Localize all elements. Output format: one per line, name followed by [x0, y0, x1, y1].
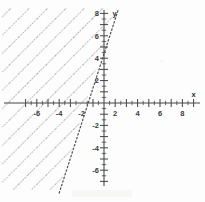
y-axis-label: y — [113, 9, 118, 18]
y-tick-label-neg4: -4 — [92, 144, 99, 153]
y-tick-label-8: 8 — [95, 9, 99, 18]
y-tick-label-6: 6 — [95, 32, 99, 41]
x-tick-label-8: 8 — [180, 109, 184, 118]
x-tick-label-6: 6 — [158, 109, 162, 118]
y-tick-label-2: 2 — [95, 76, 99, 85]
x-tick-label-neg4: -4 — [56, 109, 63, 118]
x-tick-label-4: 4 — [136, 109, 141, 118]
coordinate-plane-plot: -6 -4 -2 2 4 6 8 8 6 4 2 -2 -4 -6 x y — [0, 0, 205, 202]
x-tick-label-2: 2 — [113, 109, 117, 118]
scan-artifact — [72, 190, 132, 197]
x-tick-labels: -6 -4 -2 2 4 6 8 — [33, 109, 184, 118]
y-tick-label-neg2: -2 — [92, 121, 99, 130]
x-axis-label: x — [192, 90, 197, 99]
x-tick-label-neg6: -6 — [33, 109, 40, 118]
y-tick-label-neg6: -6 — [92, 166, 99, 175]
scan-artifact — [160, 60, 163, 63]
graph-figure: -6 -4 -2 2 4 6 8 8 6 4 2 -2 -4 -6 x y — [0, 0, 205, 202]
x-tick-label-neg2: -2 — [78, 109, 85, 118]
